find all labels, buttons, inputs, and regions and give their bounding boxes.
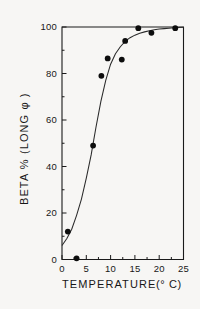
data-point [105,55,111,61]
data-point [135,25,141,31]
y-tick-label: 80 [46,68,57,79]
y-axis-title: BETA % (LONG φ ) [18,92,30,205]
x-tick-label: 25 [178,263,189,274]
x-tick-label: 15 [129,263,140,274]
data-point [65,229,71,235]
x-axis-title: TEMPERATURE [62,278,156,290]
chart-plot-area: 0510152025020406080100 TEMPERATURE (° C)… [0,0,200,309]
y-tick-label: 0 [52,254,57,265]
y-tick-label: 60 [46,114,57,125]
x-tick-label: 5 [84,263,89,274]
data-point [122,38,128,44]
data-point [172,25,178,31]
y-tick-label: 40 [46,161,57,172]
data-point [90,143,96,149]
data-point-markers [65,25,178,261]
data-point [74,255,80,261]
chart-figure: 0510152025020406080100 TEMPERATURE (° C)… [0,0,200,309]
y-tick-label: 20 [46,207,57,218]
x-axis-units: (° C) [156,278,182,290]
y-tick-label: 100 [41,21,57,32]
x-tick-label: 10 [105,263,116,274]
x-tick-label: 20 [154,263,165,274]
data-point [98,73,104,79]
x-tick-label: 0 [59,263,64,274]
axis-tick-labels: 0510152025020406080100 [41,21,189,273]
data-point [119,57,125,63]
data-point [149,30,155,36]
